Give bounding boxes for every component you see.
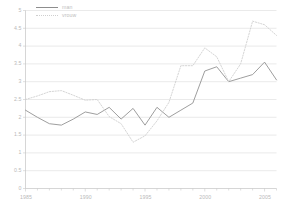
x-axis-tick-label: 1995 [140,195,152,200]
legend-swatch-solid-icon [36,7,58,8]
chart-plot-area [0,0,281,214]
y-axis-tick-label: 2 [19,115,22,120]
legend-item-man: man [36,3,98,11]
y-gridlines [26,11,277,171]
x-axis-tick-label: 2000 [199,195,211,200]
legend-swatch-dotted-icon [36,15,58,16]
legend-label-man: man [62,3,72,11]
chart-legend: man vrouw [36,3,98,19]
y-axis-tick-label: 3 [19,79,22,84]
y-axis-tick-label: 4 [19,43,22,48]
series-line-man [26,62,277,125]
x-axis-ticks [23,11,277,192]
y-axis-tick-label: 5 [19,8,22,13]
y-axis-tick-label: 1 [19,150,22,155]
x-axis-tick-label: 1985 [20,195,32,200]
y-axis-tick-label: 2.5 [14,97,22,102]
y-axis-tick-label: 0 [19,186,22,191]
y-axis-tick-label: 4.5 [14,26,22,31]
line-chart: man vrouw 54.543.532.521.510.50 19851990… [0,0,281,214]
x-axis-tick-label: 1990 [80,195,92,200]
legend-item-vrouw: vrouw [36,11,98,19]
y-axis-tick-label: 1.5 [14,132,22,137]
legend-label-vrouw: vrouw [62,11,76,19]
y-axis-tick-label: 0.5 [14,168,22,173]
y-axis-tick-label: 3.5 [14,61,22,66]
x-axis-tick-label: 2005 [259,195,271,200]
